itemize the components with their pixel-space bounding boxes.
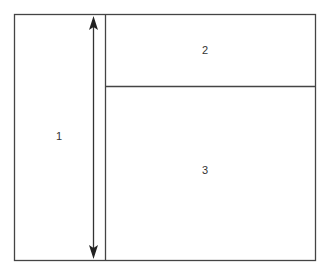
region-1-label: 1 xyxy=(56,130,62,142)
region-2-label: 2 xyxy=(202,44,208,56)
height-arrow-icon xyxy=(89,16,98,259)
layout-diagram xyxy=(0,0,328,272)
region-3-label: 3 xyxy=(202,164,208,176)
